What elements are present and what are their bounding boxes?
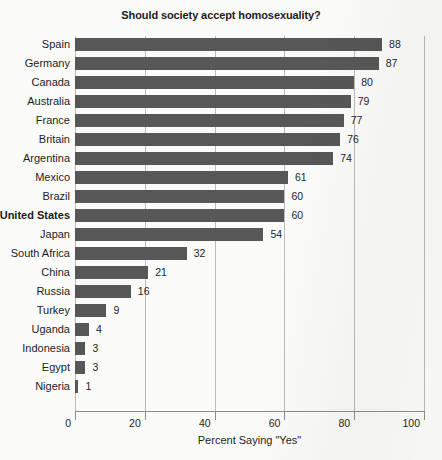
bar-row: Russia16	[75, 283, 424, 302]
bar-row: Britain76	[75, 131, 424, 150]
bar-row: France77	[75, 112, 424, 131]
bar-egypt	[75, 361, 85, 374]
value-label-egypt: 3	[92, 360, 98, 374]
bar-south-africa	[75, 247, 187, 260]
value-label-mexico: 61	[295, 170, 307, 184]
value-label-indonesia: 3	[92, 341, 98, 355]
value-label-japan: 54	[270, 227, 282, 241]
bar-row: South Africa32	[75, 245, 424, 264]
bar-indonesia	[75, 342, 85, 355]
bar-row: Turkey9	[75, 302, 424, 321]
value-label-turkey: 9	[113, 303, 119, 317]
bar-russia	[75, 285, 131, 298]
value-label-canada: 80	[361, 75, 373, 89]
tick-label-0: 0	[65, 417, 75, 429]
tick-label-100: 100	[402, 417, 424, 429]
value-label-argentina: 74	[340, 151, 352, 165]
bar-row: Mexico61	[75, 169, 424, 188]
tick-100	[424, 411, 425, 420]
bar-row: Indonesia3	[75, 340, 424, 359]
tick-80	[354, 411, 355, 420]
value-label-uganda: 4	[96, 322, 102, 336]
bar-row: Argentina74	[75, 150, 424, 169]
chart-page: Should society accept homosexuality? Spa…	[0, 0, 442, 460]
bar-row: China21	[75, 264, 424, 283]
bar-row: Spain88	[75, 36, 424, 55]
tick-20	[145, 411, 146, 420]
category-label-nigeria: Nigeria	[0, 378, 70, 395]
bar-japan	[75, 228, 263, 241]
category-label-united-states: United States	[0, 207, 70, 224]
bar-row: Canada80	[75, 74, 424, 93]
bar-canada	[75, 76, 354, 89]
category-label-france: France	[0, 112, 70, 129]
bar-row: Japan54	[75, 226, 424, 245]
bar-row: United States60	[75, 207, 424, 226]
bar-spain	[75, 38, 382, 51]
bar-nigeria	[75, 380, 78, 393]
bar-row: Nigeria1	[75, 378, 424, 397]
category-label-britain: Britain	[0, 131, 70, 148]
category-label-canada: Canada	[0, 74, 70, 91]
category-label-mexico: Mexico	[0, 169, 70, 186]
value-label-britain: 76	[347, 132, 359, 146]
chart-title: Should society accept homosexuality?	[0, 9, 442, 21]
bar-china	[75, 266, 148, 279]
value-label-australia: 79	[358, 94, 370, 108]
value-label-south-africa: 32	[194, 246, 206, 260]
tick-label-20: 20	[129, 417, 145, 429]
value-label-germany: 87	[386, 56, 398, 70]
bar-france	[75, 114, 344, 127]
x-axis-title: Percent Saying "Yes"	[75, 434, 424, 446]
category-label-argentina: Argentina	[0, 150, 70, 167]
gridline-100	[424, 36, 425, 411]
category-label-japan: Japan	[0, 226, 70, 243]
value-label-russia: 16	[138, 284, 150, 298]
tick-0	[75, 411, 76, 420]
value-label-spain: 88	[389, 37, 401, 51]
tick-40	[215, 411, 216, 420]
bar-united-states	[75, 209, 284, 222]
category-label-south-africa: South Africa	[0, 245, 70, 262]
bar-germany	[75, 57, 379, 70]
bar-row: Germany87	[75, 55, 424, 74]
bar-mexico	[75, 171, 288, 184]
value-label-france: 77	[351, 113, 363, 127]
bar-australia	[75, 95, 351, 108]
value-label-united-states: 60	[291, 208, 303, 222]
category-label-turkey: Turkey	[0, 302, 70, 319]
bar-row: Brazil60	[75, 188, 424, 207]
x-axis-baseline	[75, 411, 424, 412]
bar-row: Egypt3	[75, 359, 424, 378]
category-label-china: China	[0, 264, 70, 281]
plot-area: Spain88Germany87Canada80Australia79Franc…	[75, 36, 424, 411]
category-label-brazil: Brazil	[0, 188, 70, 205]
category-label-egypt: Egypt	[0, 359, 70, 376]
tick-60	[284, 411, 285, 420]
category-label-australia: Australia	[0, 93, 70, 110]
category-label-germany: Germany	[0, 55, 70, 72]
category-label-spain: Spain	[0, 36, 70, 53]
category-label-indonesia: Indonesia	[0, 340, 70, 357]
bar-uganda	[75, 323, 89, 336]
tick-label-80: 80	[339, 417, 355, 429]
category-label-uganda: Uganda	[0, 321, 70, 338]
bar-argentina	[75, 152, 333, 165]
category-label-russia: Russia	[0, 283, 70, 300]
value-label-nigeria: 1	[85, 379, 91, 393]
tick-label-40: 40	[199, 417, 215, 429]
value-label-china: 21	[155, 265, 167, 279]
bar-rows: Spain88Germany87Canada80Australia79Franc…	[75, 36, 424, 397]
tick-label-60: 60	[269, 417, 285, 429]
bar-turkey	[75, 304, 106, 317]
bar-row: Uganda4	[75, 321, 424, 340]
bar-row: Australia79	[75, 93, 424, 112]
bar-brazil	[75, 190, 284, 203]
bar-britain	[75, 133, 340, 146]
value-label-brazil: 60	[291, 189, 303, 203]
